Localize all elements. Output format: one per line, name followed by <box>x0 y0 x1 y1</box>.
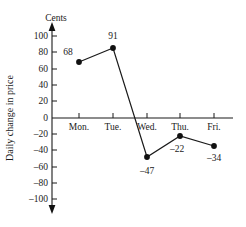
line-chart: Cents Daily change in price 100 80 60 <box>0 0 246 227</box>
y-tick-label: 80 <box>39 47 49 57</box>
x-tick-label: Mon. <box>69 122 89 132</box>
data-point-marker <box>110 45 116 51</box>
y-tick-label: 0 <box>43 113 48 123</box>
x-axis-ticks <box>79 113 214 118</box>
data-point-marker <box>76 59 82 65</box>
y-axis-title: Daily change in price <box>4 75 15 161</box>
data-point-marker <box>144 154 150 160</box>
x-tick-label: Wed. <box>137 122 157 132</box>
data-value-label: –47 <box>139 166 155 176</box>
y-axis-arrow-up-icon <box>49 22 56 31</box>
data-value-label: 91 <box>108 31 118 41</box>
y-axis-tick-labels: 100 80 60 40 20 0 –20 –40 –60 –80 –100 <box>28 31 48 204</box>
y-tick-label: –60 <box>33 162 49 172</box>
data-point-markers <box>76 45 217 160</box>
x-tick-label: Fri. <box>207 122 220 132</box>
data-series-line <box>79 48 214 157</box>
x-axis-tick-labels: Mon. Tue. Wed. Thu. Fri. <box>69 122 221 132</box>
chart-canvas: Cents Daily change in price 100 80 60 <box>0 0 246 227</box>
data-value-label: –22 <box>169 144 185 154</box>
data-value-label: –34 <box>206 153 222 163</box>
unit-axis-title: Cents <box>45 13 67 23</box>
y-tick-label: 20 <box>39 96 49 106</box>
x-tick-label: Tue. <box>105 122 122 132</box>
data-point-marker <box>177 133 183 139</box>
y-tick-label: 60 <box>39 64 49 74</box>
y-tick-label: 100 <box>34 31 49 41</box>
y-tick-label: 40 <box>39 80 49 90</box>
y-tick-label: –80 <box>33 178 49 188</box>
y-tick-label: –100 <box>28 194 48 204</box>
data-point-marker <box>211 143 217 149</box>
x-tick-label: Thu. <box>171 122 189 132</box>
y-axis-arrow-down-icon <box>49 205 56 214</box>
y-tick-label: –20 <box>33 129 49 139</box>
y-tick-label: –40 <box>33 145 49 155</box>
data-value-label: 68 <box>63 47 73 57</box>
data-value-labels: 68 91 –47 –22 –34 <box>63 31 221 176</box>
